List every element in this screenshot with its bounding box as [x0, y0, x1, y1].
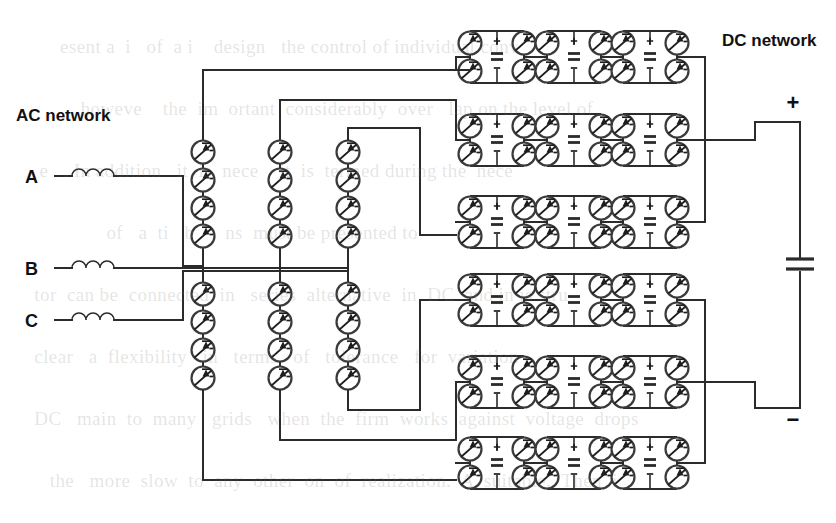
full-bridge-submodule[interactable]	[533, 356, 615, 408]
full-bridge-submodule[interactable]	[609, 274, 691, 326]
full-bridge-submodule[interactable]	[456, 196, 538, 248]
submodule-row-lower-2	[456, 356, 691, 408]
phase-a-label: A	[25, 167, 38, 187]
full-bridge-submodule[interactable]	[456, 114, 538, 166]
schematic-canvas: AC network DC network A B C + −	[0, 0, 836, 523]
thyristor-valve-icon[interactable]	[269, 197, 292, 220]
valve-string-leg-c	[337, 140, 360, 390]
thyristor-valve-icon[interactable]	[269, 169, 292, 192]
full-bridge-submodule[interactable]	[609, 437, 691, 489]
thyristor-valve-icon[interactable]	[192, 197, 215, 220]
full-bridge-submodule[interactable]	[456, 437, 538, 489]
submodule-row-upper-1	[456, 31, 691, 83]
dc-network-label: DC network	[722, 31, 817, 50]
link-legb-top	[280, 100, 456, 140]
thyristor-valve-icon[interactable]	[192, 225, 215, 248]
thyristor-valve-icon[interactable]	[269, 283, 292, 306]
phase-b-reactor-icon	[72, 261, 114, 268]
full-bridge-submodule[interactable]	[456, 356, 538, 408]
full-bridge-submodule[interactable]	[609, 31, 691, 83]
thyristor-valve-icon[interactable]	[337, 169, 360, 192]
submodule-row-lower-3	[456, 437, 691, 489]
link-legc-bottom	[348, 300, 456, 410]
full-bridge-submodule[interactable]	[609, 196, 691, 248]
link-lega-bottom	[203, 390, 456, 480]
thyristor-valve-icon[interactable]	[192, 141, 215, 164]
ac-network-label: AC network	[16, 106, 111, 125]
phase-b-label: B	[25, 259, 38, 279]
valve-string-leg-a	[192, 118, 215, 390]
thyristor-valve-icon[interactable]	[269, 225, 292, 248]
full-bridge-submodule[interactable]	[533, 31, 615, 83]
thyristor-valve-icon[interactable]	[337, 225, 360, 248]
thyristor-valve-icon[interactable]	[269, 339, 292, 362]
submodule-row-lower-1	[456, 274, 691, 326]
thyristor-valve-icon[interactable]	[192, 311, 215, 334]
submodule-row-upper-2	[456, 114, 691, 166]
dc-network-group	[691, 122, 814, 408]
thyristor-valve-icon[interactable]	[192, 169, 215, 192]
phase-b-branch	[55, 261, 280, 268]
thyristor-valve-icon[interactable]	[337, 367, 360, 390]
link-lega-top	[203, 70, 456, 118]
thyristor-valve-icon[interactable]	[337, 339, 360, 362]
full-bridge-submodule[interactable]	[533, 114, 615, 166]
thyristor-valve-icon[interactable]	[337, 311, 360, 334]
leg-to-arm-interconnect	[203, 70, 456, 480]
valve-string-group	[192, 118, 360, 390]
dc-positive-label: +	[787, 90, 800, 115]
valve-string-leg-b	[269, 118, 292, 390]
full-bridge-submodule[interactable]	[609, 356, 691, 408]
thyristor-valve-icon[interactable]	[337, 141, 360, 164]
submodule-row-upper-3	[456, 196, 691, 248]
dc-negative-rail	[691, 382, 800, 408]
full-bridge-submodule[interactable]	[533, 437, 615, 489]
full-bridge-submodule[interactable]	[609, 114, 691, 166]
phase-c-label: C	[25, 311, 38, 331]
dc-positive-rail	[691, 122, 800, 140]
dc-negative-label: −	[787, 407, 800, 432]
link-legc-top	[348, 128, 456, 235]
thyristor-valve-icon[interactable]	[269, 141, 292, 164]
thyristor-valve-icon[interactable]	[192, 339, 215, 362]
circuit-diagram: esent a i of a i design the control of i…	[0, 0, 836, 523]
thyristor-valve-icon[interactable]	[192, 367, 215, 390]
thyristor-valve-icon[interactable]	[269, 367, 292, 390]
phase-a-reactor-icon	[72, 169, 114, 176]
full-bridge-submodule[interactable]	[533, 196, 615, 248]
thyristor-valve-icon[interactable]	[269, 311, 292, 334]
phase-c-reactor-icon	[72, 313, 114, 320]
phase-a-branch	[55, 169, 203, 266]
full-bridge-submodule[interactable]	[533, 274, 615, 326]
thyristor-valve-icon[interactable]	[337, 283, 360, 306]
full-bridge-submodule[interactable]	[456, 274, 538, 326]
thyristor-valve-icon[interactable]	[337, 197, 360, 220]
thyristor-valve-icon[interactable]	[192, 283, 215, 306]
